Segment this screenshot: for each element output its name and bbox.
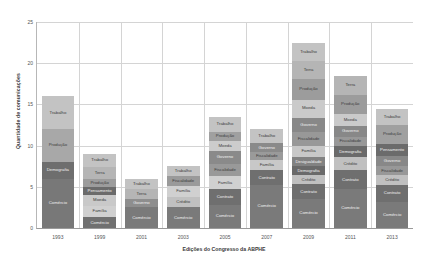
bar-segment[interactable]: Família xyxy=(292,146,325,158)
bar-segment-label: Família xyxy=(301,149,315,153)
bar-segment[interactable]: Crédito xyxy=(292,175,325,184)
bar-segment[interactable]: Comércio xyxy=(376,202,409,228)
bar-segment[interactable]: Trabalho xyxy=(376,109,409,125)
bar-segment[interactable]: Contrato xyxy=(292,184,325,199)
bar-segment[interactable]: Moeda xyxy=(292,100,325,118)
bar-stack-2011[interactable]: TerraProduçãoMoedaGovernoFiscalidadeDemo… xyxy=(334,76,367,228)
bar-segment-label: Demografia xyxy=(297,169,319,173)
bar-segment[interactable]: Produção xyxy=(209,132,242,141)
bar-segment-label: Comércio xyxy=(258,204,276,208)
bar-segment[interactable]: Governo xyxy=(250,143,283,152)
bar-segment[interactable]: Trabalho xyxy=(209,117,242,132)
bar-segment[interactable]: Produção xyxy=(292,79,325,100)
bar-segment-label: Governo xyxy=(133,201,149,205)
bar-segment[interactable]: Comércio xyxy=(83,217,116,228)
bar-segment[interactable]: Moeda xyxy=(209,141,242,151)
bar-segment[interactable]: Pensamento xyxy=(83,187,116,195)
bar-segment[interactable]: Fiscalidade xyxy=(250,152,283,160)
bar-segment[interactable]: Fiscalidade xyxy=(334,137,367,147)
bar-segment-label: Governo xyxy=(259,146,275,150)
bar-stack-2003[interactable]: TrabalhoFiscalidadeFamíliaCréditoComérci… xyxy=(167,166,200,228)
x-axis-tick-label: 2007 xyxy=(261,234,272,240)
bar-segment[interactable]: Família xyxy=(250,160,283,170)
bar-segment-label: Comércio xyxy=(174,216,192,220)
bar-segment[interactable]: Terra xyxy=(334,76,367,96)
bar-segment[interactable]: Crédito xyxy=(376,175,409,185)
bar-segment-label: Família xyxy=(260,163,274,167)
bar-segment-label: Terra xyxy=(95,171,105,175)
gridline-vertical xyxy=(204,22,205,228)
bar-segment[interactable]: Produção xyxy=(42,129,75,162)
bar-stack-1999[interactable]: TrabalhoTerraProduçãoPensamentoMoedaFamí… xyxy=(83,154,116,228)
bar-segment-label: Comércio xyxy=(299,211,317,215)
bar-segment-label: Comércio xyxy=(216,214,234,218)
bar-segment[interactable]: Comércio xyxy=(292,199,325,228)
gridline-vertical xyxy=(288,22,289,228)
bar-segment-label: Crédito xyxy=(302,178,316,182)
bar-segment[interactable]: Terra xyxy=(292,61,325,79)
bar-segment[interactable]: Fiscalidade xyxy=(292,132,325,145)
bar-segment-label: Contrato xyxy=(384,191,400,195)
y-axis-tick-label: 20 xyxy=(27,60,33,66)
bar-segment[interactable]: Contrato xyxy=(334,170,367,189)
bar-segment[interactable]: Comércio xyxy=(42,179,75,228)
bar-segment[interactable]: Governo xyxy=(209,151,242,164)
y-axis-tick-label: 0 xyxy=(30,225,33,231)
gridline-vertical xyxy=(121,22,122,228)
bar-segment[interactable]: Trabalho xyxy=(292,43,325,61)
bar-stack-2009[interactable]: TrabalhoTerraProduçãoMoedaGovernoFiscali… xyxy=(292,43,325,228)
bar-segment[interactable]: Família xyxy=(209,176,242,189)
bar-segment[interactable]: Contrato xyxy=(376,185,409,201)
bar-segment[interactable]: Comércio xyxy=(125,207,158,228)
bar-segment[interactable]: Fiscalidade xyxy=(167,176,200,186)
bar-stack-2005[interactable]: TrabalhoProduçãoMoedaGovernoFiscalidadeF… xyxy=(209,117,242,228)
bar-stack-2013[interactable]: TrabalhoProduçãoPensamentoGovernoFiscali… xyxy=(376,109,409,228)
bar-segment[interactable]: Trabalho xyxy=(83,154,116,167)
bar-segment[interactable]: Moeda xyxy=(83,195,116,206)
x-axis-tick-label: 2011 xyxy=(345,234,356,240)
bar-segment[interactable]: Governo xyxy=(376,156,409,166)
bar-segment[interactable]: Governo xyxy=(125,199,158,207)
bar-segment-label: Comércio xyxy=(49,201,67,205)
bar-segment[interactable]: Governo xyxy=(292,118,325,133)
bar-segment[interactable]: Comércio xyxy=(209,205,242,228)
bar-segment[interactable]: Fiscalidade xyxy=(209,164,242,176)
bar-stack-2007[interactable]: TrabalhoGovernoFiscalidadeFamíliaContrat… xyxy=(250,129,283,228)
gridline-vertical xyxy=(162,22,163,228)
bar-segment[interactable]: Família xyxy=(167,186,200,197)
bar-segment-label: Crédito xyxy=(176,200,190,204)
bar-segment[interactable]: Produção xyxy=(376,125,409,144)
x-axis-tick-label: 2013 xyxy=(387,234,398,240)
bar-segment[interactable]: Terra xyxy=(125,189,158,199)
bar-segment[interactable]: Contrato xyxy=(209,189,242,205)
bar-segment[interactable]: Pensamento xyxy=(376,144,409,156)
bar-segment[interactable]: Crédito xyxy=(167,197,200,208)
bar-segment-label: Contrato xyxy=(259,176,275,180)
bar-segment[interactable]: Comércio xyxy=(167,207,200,228)
bar-segment[interactable]: Produção xyxy=(83,179,116,187)
bar-segment[interactable]: Produção xyxy=(334,95,367,113)
bar-segment[interactable]: Comércio xyxy=(334,189,367,228)
bar-segment[interactable]: Desigualdade xyxy=(292,157,325,166)
bar-segment-label: Comércio xyxy=(90,221,108,225)
bar-segment[interactable]: Demografia xyxy=(42,162,75,178)
bar-segment-label: Terra xyxy=(345,83,355,87)
bar-segment[interactable]: Trabalho xyxy=(125,179,158,190)
bar-segment[interactable]: Trabalho xyxy=(167,166,200,176)
bar-segment[interactable]: Contrato xyxy=(250,170,283,185)
bar-stack-1993[interactable]: TrabalhoProduçãoDemografiaComércio xyxy=(42,96,75,228)
bar-segment[interactable]: Família xyxy=(83,206,116,218)
bar-segment[interactable]: Comércio xyxy=(250,185,283,228)
bar-segment[interactable]: Terra xyxy=(83,167,116,179)
bar-stack-2001[interactable]: TrabalhoTerraGovernoComércio xyxy=(125,179,158,228)
bar-segment[interactable]: Crédito xyxy=(334,157,367,170)
x-axis-tick-label: 2003 xyxy=(178,234,189,240)
bar-segment[interactable]: Demografia xyxy=(292,166,325,175)
bar-segment[interactable]: Governo xyxy=(334,126,367,137)
bar-segment[interactable]: Moeda xyxy=(334,114,367,126)
bar-segment[interactable]: Trabalho xyxy=(250,129,283,143)
bar-segment-label: Contrato xyxy=(300,190,316,194)
bar-segment[interactable]: Fiscalidade xyxy=(376,166,409,175)
bar-segment[interactable]: Trabalho xyxy=(42,96,75,129)
bar-segment[interactable]: Demografia xyxy=(334,146,367,157)
